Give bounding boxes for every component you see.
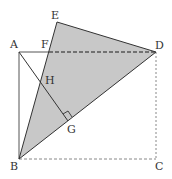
label-b: B bbox=[10, 160, 18, 173]
label-d: D bbox=[155, 39, 164, 52]
label-h: H bbox=[45, 74, 55, 87]
label-e: E bbox=[51, 9, 59, 22]
shaded-triangle-bed bbox=[19, 22, 156, 159]
label-c: C bbox=[155, 160, 163, 173]
label-f: F bbox=[41, 38, 49, 51]
geometry-diagram: A F E D H G B C bbox=[0, 0, 172, 179]
label-a: A bbox=[9, 38, 19, 51]
label-g: G bbox=[67, 123, 76, 136]
